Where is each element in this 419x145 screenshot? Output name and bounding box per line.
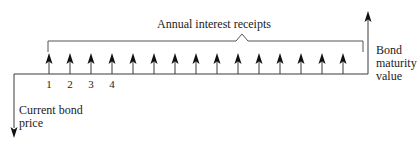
interest-receipt-arrows — [46, 53, 347, 74]
interest-arrow — [67, 53, 74, 74]
current-bond-price-label: Current bond price — [19, 104, 83, 130]
bond-maturity-arrow — [365, 11, 372, 74]
bracket-label: Annual interest receipts — [157, 18, 271, 31]
bond-maturity-line3: value — [376, 70, 417, 83]
interest-arrow — [298, 53, 305, 74]
interest-arrow — [277, 53, 284, 74]
interest-arrow — [130, 53, 137, 74]
interest-arrow — [319, 53, 326, 74]
interest-arrow — [193, 53, 200, 74]
interest-arrow — [151, 53, 158, 74]
period-label-2: 2 — [65, 78, 75, 90]
interest-arrow — [256, 53, 263, 74]
interest-arrow — [46, 53, 53, 74]
interest-arrow — [235, 53, 242, 74]
interest-bracket — [48, 34, 363, 52]
interest-arrow — [172, 53, 179, 74]
period-label-1: 1 — [44, 78, 54, 90]
current-bond-price-line2: price — [19, 117, 83, 130]
interest-arrow — [214, 53, 221, 74]
current-bond-price-arrow — [11, 74, 18, 138]
period-label-3: 3 — [86, 78, 96, 90]
bond-maturity-label: Bond maturity value — [376, 44, 417, 83]
interest-arrow — [340, 53, 347, 74]
period-label-4: 4 — [107, 78, 117, 90]
interest-arrow — [109, 53, 116, 74]
interest-arrow — [88, 53, 95, 74]
